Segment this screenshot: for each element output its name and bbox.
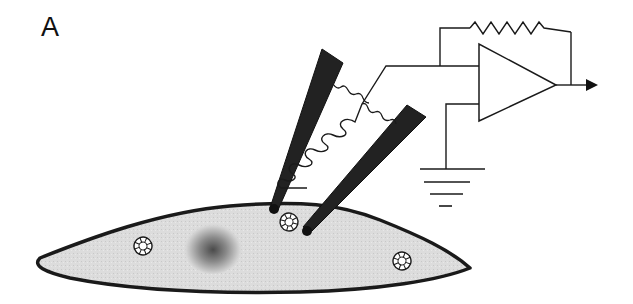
electrode-right [303,105,426,231]
electrode-left [270,49,343,210]
ground-icon [420,169,485,206]
nucleus [183,220,243,274]
diagram [0,0,633,304]
electrode-right-tip [302,226,312,236]
wavy-wire-right [362,104,396,125]
op-amp [479,44,556,121]
input-wire [362,66,440,104]
feedback-wire [440,28,470,66]
wavy-wire-left [333,84,369,103]
cell-body [38,203,470,292]
output-arrow-icon [586,79,598,91]
non-inverting-input-wire [446,104,479,169]
feedback-resistor [470,22,571,34]
electrode-left-tip [269,204,279,214]
